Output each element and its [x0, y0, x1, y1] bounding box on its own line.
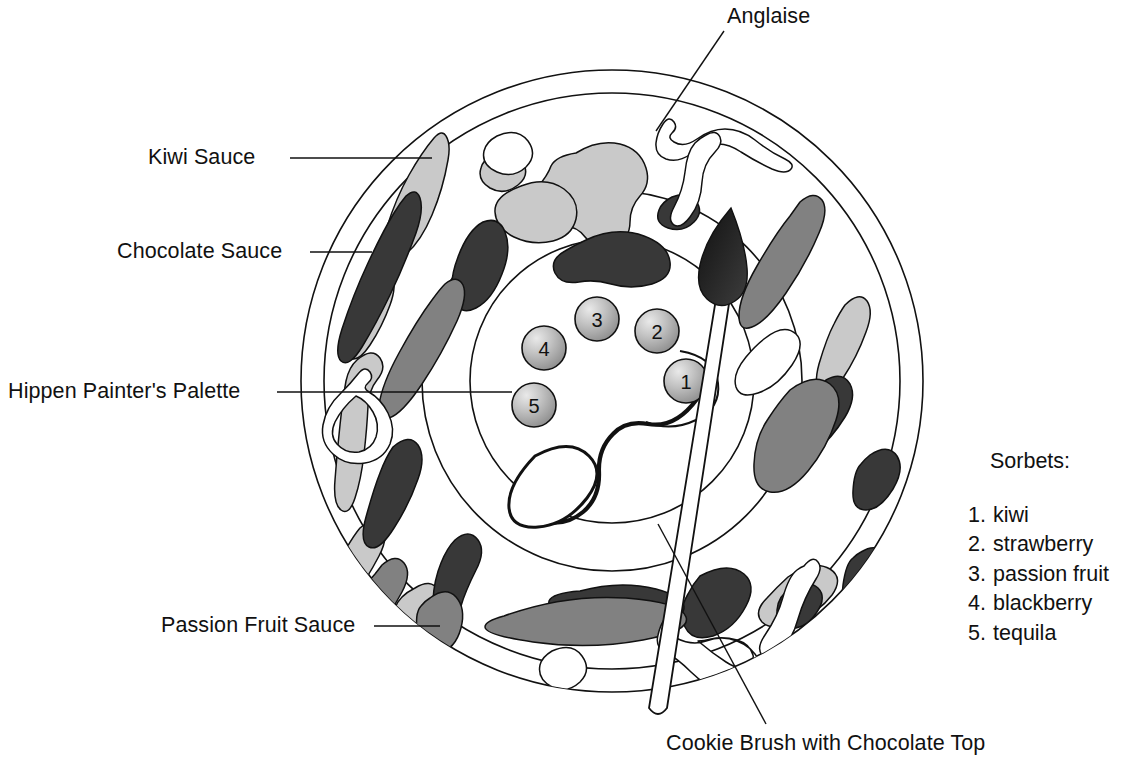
- chocolate-blob-right-mid: [853, 449, 900, 510]
- anglaise-oval-right: [735, 330, 800, 395]
- sorbets-legend-title: Sorbets:: [990, 451, 1109, 473]
- scoop-3[interactable]: 3: [575, 297, 619, 341]
- sorbet-number: 3.: [968, 560, 993, 590]
- sorbet-name: kiwi: [993, 503, 1029, 527]
- scoop-2-label: 2: [651, 321, 662, 343]
- sorbets-legend-list: 1.kiwi 2.strawberry 3.passion fruit 4.bl…: [968, 501, 1109, 649]
- label-passion-fruit-sauce: Passion Fruit Sauce: [161, 615, 355, 637]
- scoop-3-label: 3: [591, 309, 602, 331]
- leader-anglaise: [656, 31, 724, 131]
- passion-blob-right-top-long: [739, 195, 825, 328]
- chocolate-blob-bottom-center-right: [682, 568, 751, 638]
- passion-blob-bottom-sweep: [485, 597, 686, 645]
- sorbet-number: 5.: [968, 619, 993, 649]
- scoop-4-label: 4: [538, 338, 549, 360]
- chocolate-blob-top-center: [553, 232, 670, 287]
- scoop-1-label: 1: [680, 371, 691, 393]
- figure-canvas: 3 2 4 1 5: [0, 0, 1133, 767]
- scoop-4[interactable]: 4: [522, 326, 566, 370]
- sorbet-number: 2.: [968, 530, 993, 560]
- sorbet-number: 1.: [968, 501, 993, 531]
- label-chocolate-sauce: Chocolate Sauce: [117, 241, 282, 263]
- list-item: 1.kiwi: [968, 501, 1109, 531]
- sorbet-name: strawberry: [993, 532, 1093, 556]
- label-hippen-palette: Hippen Painter's Palette: [8, 381, 240, 403]
- scoop-2[interactable]: 2: [635, 309, 679, 353]
- sorbet-number: 4.: [968, 589, 993, 619]
- anglaise-drop-top-left: [484, 132, 533, 174]
- list-item: 5.tequila: [968, 619, 1109, 649]
- anglaise-drop-bottom-left: [540, 647, 587, 689]
- sorbets-legend: Sorbets: 1.kiwi 2.strawberry 3.passion f…: [968, 451, 1109, 648]
- sorbet-name: tequila: [993, 621, 1056, 645]
- chocolate-top: [699, 208, 748, 306]
- scoop-5[interactable]: 5: [512, 383, 556, 427]
- palette-thumb-hole: [509, 447, 597, 528]
- label-kiwi-sauce: Kiwi Sauce: [148, 147, 255, 169]
- list-item: 2.strawberry: [968, 530, 1109, 560]
- label-anglaise: Anglaise: [727, 6, 810, 28]
- sorbet-name: blackberry: [993, 591, 1092, 615]
- scoop-5-label: 5: [528, 395, 539, 417]
- label-cookie-brush: Cookie Brush with Chocolate Top: [666, 733, 985, 755]
- anglaise-squiggle-top: [656, 119, 792, 172]
- list-item: 3.passion fruit: [968, 560, 1109, 590]
- sorbet-name: passion fruit: [993, 562, 1109, 586]
- passion-blob-left-bottom: [350, 558, 407, 635]
- palette-scoops: 3 2 4 1 5: [512, 297, 708, 427]
- passion-blob-right-big: [754, 379, 839, 492]
- chocolate-blob-right-lower: [843, 548, 889, 607]
- list-item: 4.blackberry: [968, 589, 1109, 619]
